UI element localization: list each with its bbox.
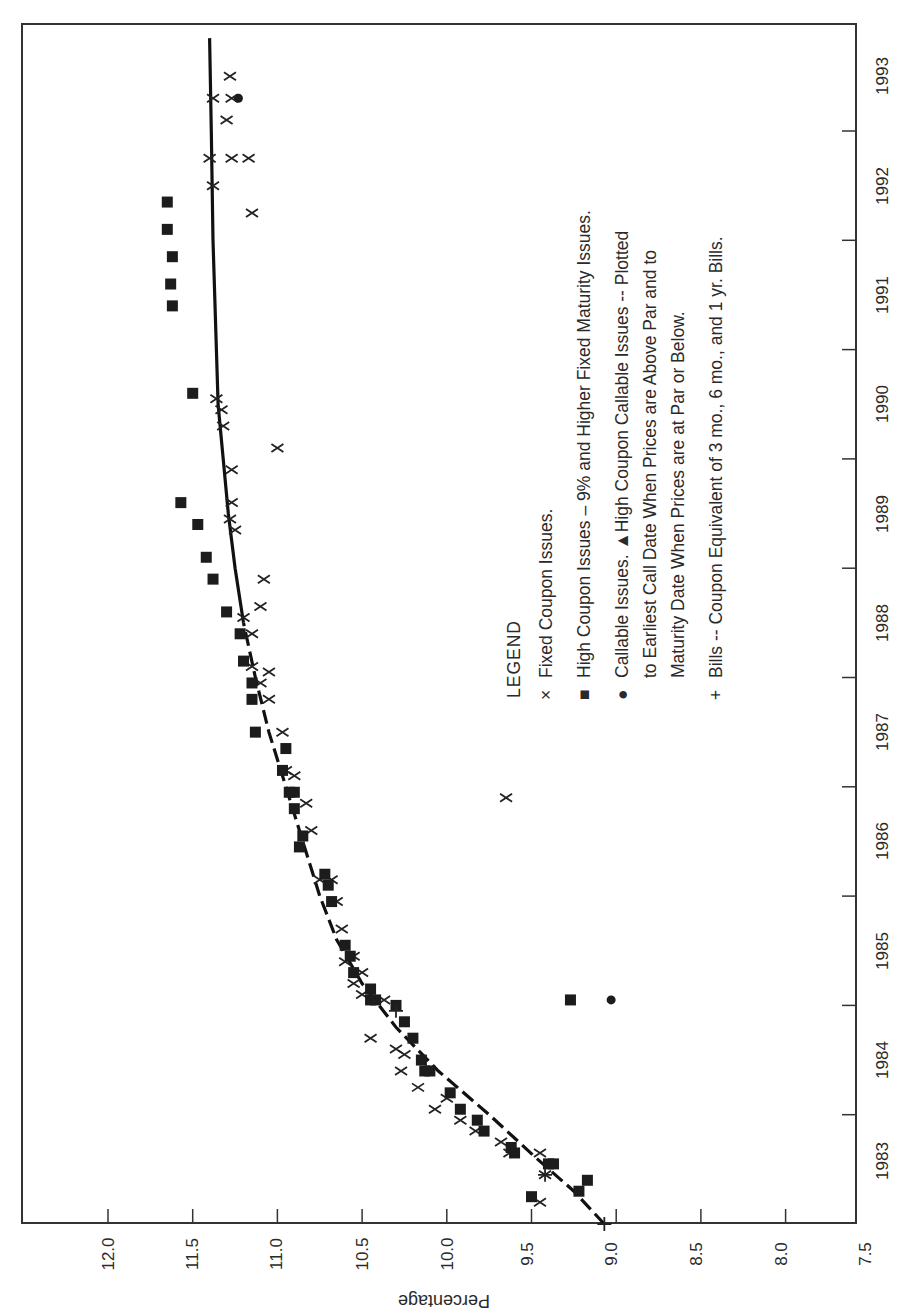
percentage-tick-label: 10.0 — [437, 1237, 457, 1270]
percentage-tick-label: 12.0 — [99, 1237, 119, 1270]
legend-title: LEGEND — [500, 100, 528, 698]
square-marker-icon: ■ — [570, 678, 598, 700]
percentage-tick-label: 9.0 — [602, 1242, 622, 1266]
percentage-tick-label: 11.5 — [183, 1238, 203, 1270]
year-tick-label: 1984 — [873, 1041, 893, 1079]
yield-curve-chart — [0, 0, 911, 1315]
x-marker-icon: × — [532, 678, 560, 700]
year-tick-label: 1992 — [873, 167, 893, 205]
year-tick-label: 1985 — [873, 932, 893, 970]
percentage-tick-label: 7.5 — [856, 1242, 876, 1266]
year-tick-label: 1983 — [873, 1142, 893, 1180]
year-tick-label: 1986 — [873, 823, 893, 861]
percentage-tick-label: 11.0 — [267, 1238, 287, 1270]
plus-marker-icon: + — [702, 678, 730, 700]
legend-item-fixed-coupon: ×Fixed Coupon Issues. — [532, 100, 560, 700]
year-tick-label: 1990 — [873, 385, 893, 423]
percentage-tick-label: 10.5 — [353, 1237, 373, 1270]
year-tick-label: 1989 — [873, 495, 893, 533]
legend-text: High Coupon Issues – 9% and Higher Fixed… — [574, 210, 594, 678]
year-axis-ticks — [842, 131, 856, 1115]
legend-text: Fixed Coupon Issues. — [536, 509, 556, 678]
percentage-tick-label: 8.0 — [771, 1242, 791, 1266]
year-tick-label: 1991 — [873, 276, 893, 314]
legend-item-bills: +Bills -- Coupon Equivalent of 3 mo., 6 … — [702, 100, 730, 700]
legend-text: Maturity Date When Prices are at Par or … — [664, 100, 692, 700]
year-tick-label: 1988 — [873, 604, 893, 642]
legend-item-callable: ●Callable Issues. ▲High Coupon Callable … — [608, 100, 692, 700]
year-tick-label: 1993 — [873, 57, 893, 95]
legend-text: Callable Issues. ▲High Coupon Callable I… — [612, 231, 632, 678]
circle-marker-icon: ● — [608, 678, 636, 700]
percentage-tick-label: 8.5 — [687, 1242, 707, 1266]
legend-text: to Earliest Call Date When Prices are Ab… — [636, 100, 664, 700]
legend-item-high-coupon: ■High Coupon Issues – 9% and Higher Fixe… — [570, 100, 598, 700]
percentage-axis-title: Percentage — [398, 1290, 490, 1311]
legend: LEGEND ×Fixed Coupon Issues. ■High Coupo… — [500, 100, 740, 700]
percentage-tick-label: 9.5 — [517, 1242, 537, 1266]
year-tick-label: 1987 — [873, 713, 893, 751]
legend-text: Bills -- Coupon Equivalent of 3 mo., 6 m… — [706, 236, 726, 678]
percentage-axis-ticks — [108, 1209, 786, 1223]
